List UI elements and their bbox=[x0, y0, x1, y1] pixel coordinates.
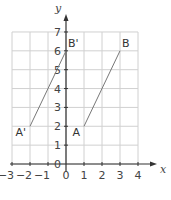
y-tick-label: 0 bbox=[54, 158, 61, 171]
x-tick-label: 4 bbox=[135, 169, 142, 182]
x-axis-label: x bbox=[160, 163, 167, 176]
y-tick-label: 1 bbox=[54, 139, 61, 152]
x-axis-arrow-icon bbox=[150, 162, 157, 167]
point-label: A' bbox=[15, 126, 26, 139]
y-tick-label: 7 bbox=[54, 26, 61, 39]
y-axis-arrow-icon bbox=[64, 14, 69, 21]
y-tick-label: 3 bbox=[54, 101, 61, 114]
x-tick-label: −1 bbox=[34, 169, 50, 182]
x-tick-label: 1 bbox=[81, 169, 88, 182]
x-tick-label: −3 bbox=[0, 169, 14, 182]
y-tick-label: 4 bbox=[54, 83, 61, 96]
y-tick-label: 6 bbox=[54, 45, 61, 58]
point-label: B bbox=[122, 37, 130, 50]
y-axis-label: y bbox=[54, 2, 62, 15]
x-tick-label: 2 bbox=[99, 169, 106, 182]
y-tick-label: 2 bbox=[54, 120, 61, 133]
x-tick-label: 0 bbox=[63, 169, 70, 182]
x-tick-labels: −3−2−101234 bbox=[0, 169, 142, 182]
x-tick-label: 3 bbox=[117, 169, 124, 182]
y-tick-labels: 01234567 bbox=[54, 26, 61, 171]
coordinate-plane: −3−2−101234 01234567 ABA'B' x y bbox=[0, 0, 171, 200]
point-label: A bbox=[72, 126, 80, 139]
point-label: B' bbox=[68, 37, 79, 50]
x-tick-label: −2 bbox=[16, 169, 32, 182]
